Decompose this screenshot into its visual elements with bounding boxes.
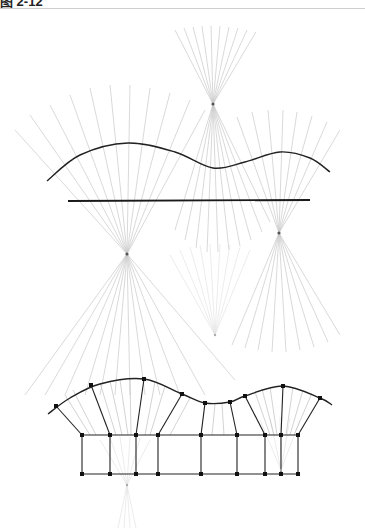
ray-diagram [0, 0, 365, 528]
focus-left-rays [15, 85, 235, 395]
focus-bottom-right-faint-rays [260, 417, 300, 470]
focus-top-point [211, 102, 214, 105]
focus-right-point [277, 231, 280, 234]
grid [82, 435, 298, 474]
focus-faint-mid-rays [170, 244, 250, 335]
focus-bottom-faint-point [126, 484, 128, 486]
top-straight-line [68, 200, 310, 201]
convergence-rays [15, 26, 340, 528]
focus-left-point [125, 252, 128, 255]
focus-faint-mid-point [214, 334, 216, 336]
straight-line [68, 200, 310, 201]
focus-bottom-faint-rays [100, 437, 150, 528]
focus-bottom-right-faint-point [280, 469, 282, 471]
bottom-curve-grid [48, 377, 332, 476]
